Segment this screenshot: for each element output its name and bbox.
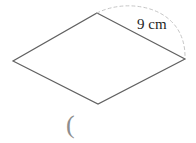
diagram-canvas: 9 cm ( [0, 0, 196, 143]
side-length-label: 9 cm [137, 16, 167, 32]
caption-fragment: ( [66, 110, 75, 139]
rhombus-diagram: 9 cm ( [0, 0, 196, 143]
